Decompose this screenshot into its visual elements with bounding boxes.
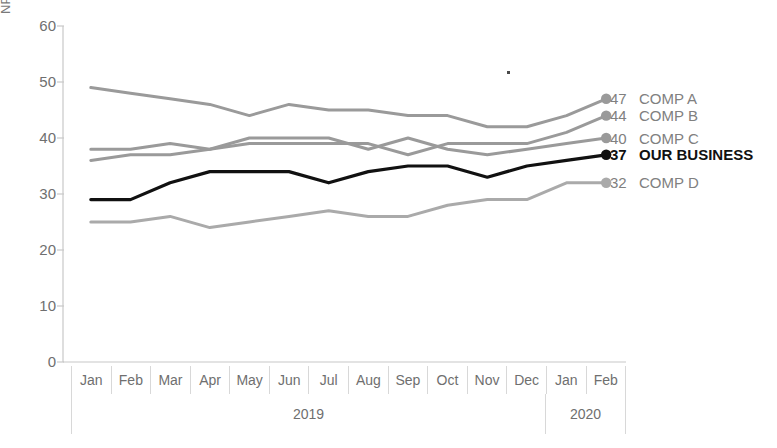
legend-value: 37 xyxy=(610,146,632,163)
x-axis-month-label: Dec xyxy=(506,366,546,394)
x-axis-month-label: Jun xyxy=(269,366,309,394)
x-axis-month-label: Mar xyxy=(150,366,190,394)
legend-item[interactable]: 44COMP B xyxy=(612,106,698,126)
x-axis-month-label: Apr xyxy=(190,366,230,394)
x-axis-month-row: JanFebMarAprMayJunJulAugSepOctNovDecJanF… xyxy=(71,366,626,394)
x-axis: JanFebMarAprMayJunJulAugSepOctNovDecJanF… xyxy=(71,366,626,434)
x-axis-month-label: May xyxy=(229,366,269,394)
nps-line-chart: NPS 6050403020100 47COMP A44COMP B40COMP… xyxy=(0,0,777,448)
x-axis-month-label: Oct xyxy=(427,366,467,394)
stray-mark xyxy=(507,71,510,74)
series-line-our-business xyxy=(91,155,606,200)
x-axis-month-label: Nov xyxy=(467,366,507,394)
legend-value: 32 xyxy=(610,174,632,191)
x-axis-year-label: 2020 xyxy=(545,394,626,434)
x-axis-month-label: Jan xyxy=(546,366,586,394)
x-axis-year-label: 2019 xyxy=(71,394,545,434)
legend-item[interactable]: 32COMP D xyxy=(612,173,699,193)
x-axis-month-label: Aug xyxy=(348,366,388,394)
x-axis-month-label: Feb xyxy=(111,366,151,394)
legend-label: OUR BUSINESS xyxy=(639,146,753,163)
x-axis-year-row: 20192020 xyxy=(71,394,626,434)
x-axis-month-label: Jul xyxy=(308,366,348,394)
x-axis-month-label: Feb xyxy=(586,366,627,394)
legend-item[interactable]: 37OUR BUSINESS xyxy=(612,145,753,165)
legend-label: COMP B xyxy=(639,107,698,124)
series-line-comp-a xyxy=(91,88,606,127)
series-line-comp-d xyxy=(91,183,606,228)
legend-label: COMP D xyxy=(639,174,699,191)
legend-value: 44 xyxy=(610,107,632,124)
x-axis-month-label: Jan xyxy=(71,366,111,394)
x-axis-month-label: Sep xyxy=(388,366,428,394)
series-line-comp-c xyxy=(91,138,606,160)
